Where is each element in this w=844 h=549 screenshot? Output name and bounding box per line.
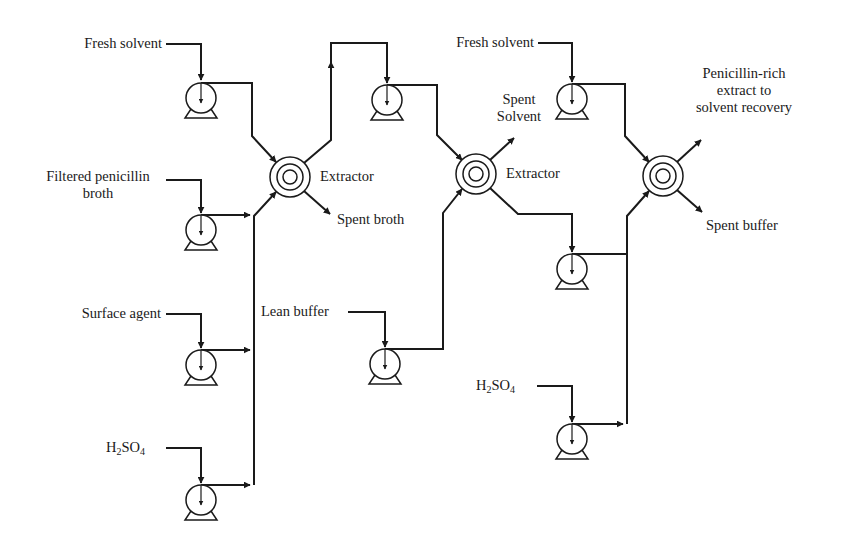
label-spent-solvent-line2: Solvent <box>484 108 554 125</box>
aqueous-collector-line <box>254 192 276 485</box>
pump-buffer-transfer-icon <box>556 254 588 289</box>
pump-fresh-solvent-1-icon <box>185 83 217 118</box>
label-filtered-broth-line1: Filtered penicillin <box>28 168 168 185</box>
label-penicillin-rich-line3: solvent recovery <box>674 99 814 116</box>
label-extractor-1: Extractor <box>320 168 374 185</box>
extract-riser-line <box>304 62 331 163</box>
pump-surface-agent-icon <box>185 350 217 385</box>
label-spent-solvent-line1: Spent <box>484 91 554 108</box>
label-spent-buffer: Spent buffer <box>706 217 778 234</box>
h2so4-2-feed-line <box>537 386 572 422</box>
collector-to-extractor-3-line <box>627 191 649 424</box>
label-penicillin-rich-line1: Penicillin-rich <box>674 65 814 82</box>
label-surface-agent: Surface agent <box>30 305 161 322</box>
extractor-3-icon <box>643 156 683 196</box>
spent-broth-outlet-line <box>304 191 330 214</box>
pump-fresh-solvent-2-icon <box>556 84 588 119</box>
lean-buffer-feed-line <box>348 312 385 347</box>
label-extractor-2: Extractor <box>506 165 560 182</box>
fresh-solvent-1-feed-line <box>166 44 201 80</box>
label-fresh-solvent-2: Fresh solvent <box>400 34 534 51</box>
pump-h2so4-1-icon <box>185 485 217 520</box>
h2so4-1-feed-line <box>166 448 201 483</box>
flow-lines <box>166 43 702 485</box>
label-penicillin-rich-line2: extract to <box>674 82 814 99</box>
label-lean-buffer: Lean buffer <box>261 303 329 320</box>
spent-solvent-outlet-line <box>490 138 514 160</box>
pump-solvent-transfer-icon <box>371 85 403 120</box>
extractor-1-icon <box>270 157 310 197</box>
penicillin-rich-outlet-line <box>677 140 701 162</box>
extract-to-pump-line <box>331 43 387 83</box>
label-spent-solvent: Spent Solvent <box>484 91 554 125</box>
pump-filtered-broth-icon <box>185 215 217 250</box>
label-h2so4-2: H2SO4 <box>476 377 515 394</box>
label-filtered-broth-line2: broth <box>28 185 168 202</box>
extractor-2-icon <box>456 154 496 194</box>
pump-h2so4-2-icon <box>556 424 588 459</box>
label-filtered-broth: Filtered penicillin broth <box>28 168 168 202</box>
buffer-extract-to-pump-line <box>490 188 572 252</box>
label-fresh-solvent-1: Fresh solvent <box>30 35 162 52</box>
pump-lean-buffer-icon <box>369 349 401 384</box>
spent-buffer-outlet-line <box>677 190 702 212</box>
fresh-solvent-2-feed-line <box>538 43 572 82</box>
process-flow-diagram: Fresh solvent Filtered penicillin broth … <box>0 0 844 549</box>
surface-agent-feed-line <box>166 314 201 348</box>
broth-feed-line <box>166 180 201 213</box>
label-h2so4-1: H2SO4 <box>106 439 145 456</box>
label-penicillin-rich-extract: Penicillin-rich extract to solvent recov… <box>674 65 814 116</box>
label-spent-broth: Spent broth <box>337 211 404 228</box>
